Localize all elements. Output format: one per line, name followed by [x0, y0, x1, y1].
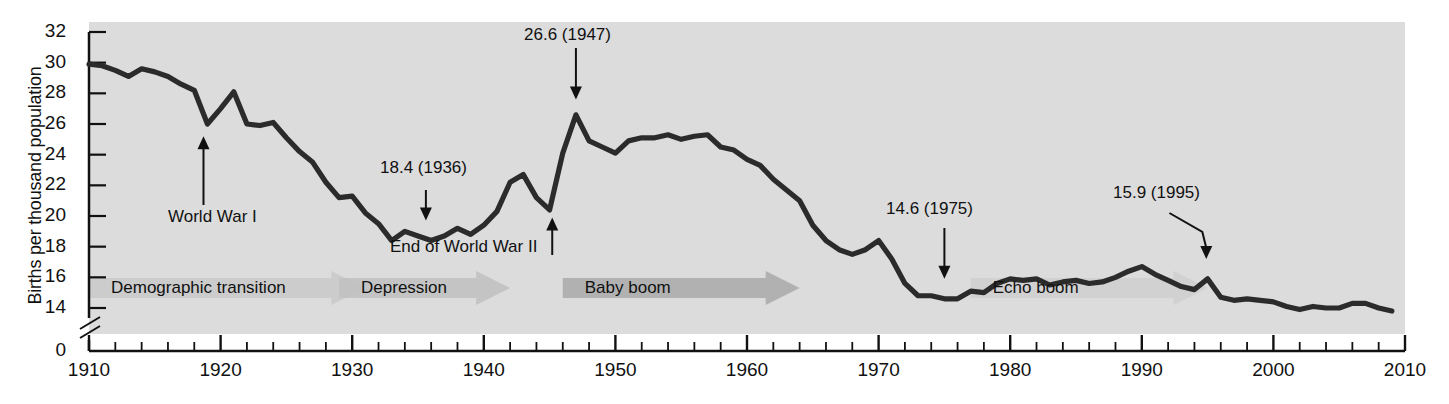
y-tick-label-30: 30	[22, 51, 66, 73]
y-tick-label-26: 26	[22, 112, 66, 134]
x-tick-label-1920: 1920	[186, 359, 256, 381]
x-tick-label-1930: 1930	[317, 359, 387, 381]
x-tick-label-1980: 1980	[975, 359, 1045, 381]
x-tick-label-2010: 2010	[1370, 359, 1440, 381]
annotation-label-d1936: 18.4 (1936)	[380, 158, 467, 178]
y-tick-label-24: 24	[22, 143, 66, 165]
y-tick-label-14: 14	[22, 296, 66, 318]
annotation-label-d1947: 26.6 (1947)	[524, 25, 611, 45]
x-tick-label-2000: 2000	[1238, 359, 1308, 381]
x-tick-label-1990: 1990	[1107, 359, 1177, 381]
chart-figure: Births per thousand population 323028262…	[0, 0, 1449, 404]
x-tick-label-1940: 1940	[449, 359, 519, 381]
annotation-label-d1995: 15.9 (1995)	[1113, 183, 1200, 203]
era-band-label-depression: Depression	[361, 278, 447, 298]
y-tick-label-0: 0	[22, 339, 66, 361]
era-band-label-baby-boom: Baby boom	[585, 278, 671, 298]
era-band-label-echo-boom: Echo boom	[993, 278, 1079, 298]
y-tick-label-18: 18	[22, 235, 66, 257]
annotation-label-ww2: End of World War II	[390, 237, 537, 257]
x-tick-label-1970: 1970	[844, 359, 914, 381]
x-tick-label-1950: 1950	[580, 359, 650, 381]
x-tick-label-1910: 1910	[54, 359, 124, 381]
y-tick-label-28: 28	[22, 81, 66, 103]
x-tick-label-1960: 1960	[712, 359, 782, 381]
annotation-label-d1975: 14.6 (1975)	[886, 199, 973, 219]
chart-canvas	[0, 0, 1449, 404]
y-tick-label-16: 16	[22, 265, 66, 287]
era-band-label-demographic-transition: Demographic transition	[111, 278, 286, 298]
y-tick-label-22: 22	[22, 173, 66, 195]
annotation-label-ww1: World War I	[168, 207, 257, 227]
y-tick-label-32: 32	[22, 20, 66, 42]
y-tick-label-20: 20	[22, 204, 66, 226]
